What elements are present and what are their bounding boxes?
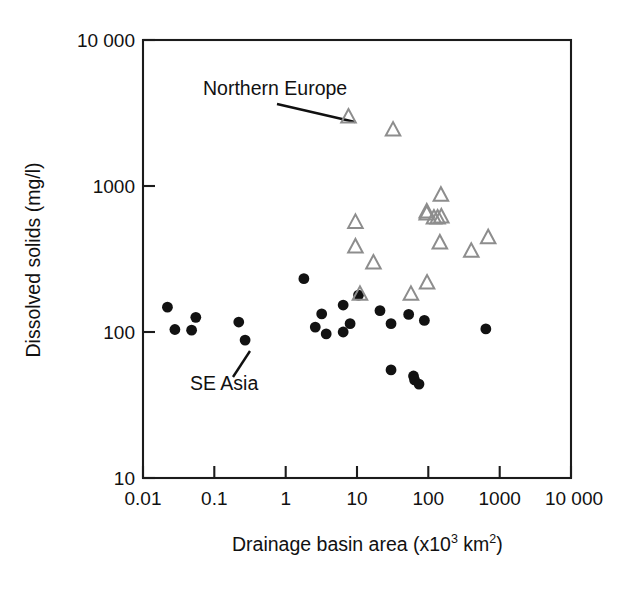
x-axis-title-sup-3: 3 bbox=[451, 532, 458, 546]
data-point-triangle bbox=[481, 230, 496, 244]
data-point-triangle bbox=[434, 187, 449, 201]
data-point-triangle bbox=[420, 275, 435, 289]
x-axis-title-base: Drainage basin area (x10 bbox=[232, 533, 451, 555]
y-axis-title: Dissolved solids (mg/l) bbox=[22, 162, 44, 357]
x-tick-label-10000: 10 000 bbox=[545, 488, 603, 509]
chart-svg: 10 000 1000 100 10 0.01 0.1 1 10 100 100… bbox=[0, 0, 637, 591]
data-point-circle bbox=[321, 329, 332, 340]
data-point-circle bbox=[403, 309, 414, 320]
data-markers-layer bbox=[162, 109, 495, 389]
y-axis-ticks bbox=[143, 40, 155, 478]
x-tick-label-1000: 1000 bbox=[479, 488, 521, 509]
x-tick-label-0-01: 0.01 bbox=[125, 488, 162, 509]
data-point-triangle bbox=[348, 214, 363, 228]
data-point-triangle bbox=[386, 122, 401, 135]
data-point-triangle bbox=[404, 286, 419, 300]
data-point-circle bbox=[386, 318, 397, 329]
annotation-label-northern-europe: Northern Europe bbox=[203, 77, 347, 99]
x-axis-title: Drainage basin area (x103 km2) bbox=[232, 532, 503, 555]
series-northern-europe bbox=[341, 109, 495, 300]
x-axis-title-mid: km bbox=[458, 533, 489, 555]
data-point-triangle bbox=[433, 235, 448, 249]
data-point-circle bbox=[419, 315, 430, 326]
x-tick-label-10: 10 bbox=[346, 488, 367, 509]
data-point-circle bbox=[233, 317, 244, 328]
y-tick-label-100: 100 bbox=[103, 322, 135, 343]
y-tick-labels: 10 000 1000 100 10 bbox=[77, 30, 135, 489]
data-point-triangle bbox=[366, 255, 381, 269]
data-point-circle bbox=[338, 300, 349, 311]
data-point-circle bbox=[186, 325, 197, 336]
svg-text:Drainage basin area (x103 km2): Drainage basin area (x103 km2) bbox=[232, 532, 503, 555]
data-point-circle bbox=[338, 327, 349, 338]
x-tick-labels: 0.01 0.1 1 10 100 1000 10 000 bbox=[125, 488, 604, 509]
data-point-circle bbox=[190, 312, 201, 323]
y-tick-label-10: 10 bbox=[114, 468, 135, 489]
data-point-triangle bbox=[464, 243, 479, 256]
annotation-label-se-asia: SE Asia bbox=[190, 372, 258, 394]
x-tick-label-0-1: 0.1 bbox=[201, 488, 227, 509]
data-point-circle bbox=[240, 335, 251, 346]
x-axis-ticks bbox=[143, 466, 571, 478]
data-point-circle bbox=[298, 273, 309, 284]
data-point-circle bbox=[310, 322, 321, 333]
data-point-circle bbox=[386, 365, 397, 376]
x-axis-title-end: ) bbox=[496, 533, 503, 555]
x-axis-title-sup-2: 2 bbox=[489, 532, 496, 546]
annotation-se-asia: SE Asia bbox=[190, 351, 258, 394]
x-tick-label-100: 100 bbox=[412, 488, 444, 509]
x-tick-label-1: 1 bbox=[280, 488, 291, 509]
data-point-circle bbox=[170, 324, 181, 335]
data-point-triangle bbox=[348, 239, 363, 253]
data-point-circle bbox=[414, 379, 425, 390]
data-point-circle bbox=[345, 318, 356, 329]
y-tick-label-10000: 10 000 bbox=[77, 30, 135, 51]
data-point-circle bbox=[316, 309, 327, 320]
data-point-circle bbox=[480, 324, 491, 335]
y-tick-label-1000: 1000 bbox=[93, 176, 135, 197]
plot-frame bbox=[143, 40, 571, 478]
data-point-circle bbox=[375, 305, 386, 316]
data-point-circle bbox=[162, 302, 173, 313]
annotation-northern-europe: Northern Europe bbox=[203, 77, 355, 122]
scatter-chart-figure: 10 000 1000 100 10 0.01 0.1 1 10 100 100… bbox=[0, 0, 637, 591]
